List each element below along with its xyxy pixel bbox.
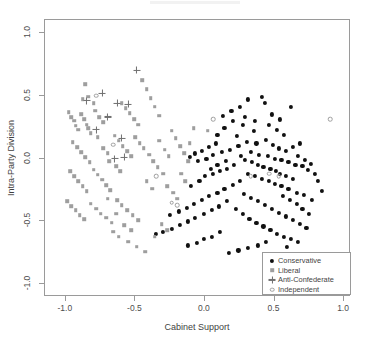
- data-point: [243, 115, 247, 119]
- data-point: [296, 240, 300, 244]
- data-point: [222, 187, 226, 191]
- data-point: [84, 155, 88, 159]
- data-point: [136, 218, 140, 222]
- data-point: [295, 190, 299, 194]
- data-point: [77, 179, 81, 183]
- legend-entry-anti-confederate[interactable]: Anti-Confederate: [267, 275, 350, 285]
- data-point: [256, 163, 260, 167]
- data-point: [114, 100, 121, 107]
- data-point: [240, 212, 244, 216]
- data-point: [116, 198, 120, 202]
- data-point: [246, 246, 250, 250]
- data-point: [125, 101, 132, 108]
- data-point: [310, 198, 314, 202]
- data-point: [97, 115, 101, 119]
- data-point: [290, 218, 294, 222]
- data-point: [303, 158, 307, 162]
- data-point: [210, 208, 214, 212]
- data-point: [218, 229, 222, 233]
- data-point: [227, 251, 231, 255]
- data-point: [133, 67, 140, 74]
- data-point: [214, 141, 218, 145]
- legend-label: Conservative: [278, 256, 321, 266]
- data-point: [206, 129, 210, 133]
- legend-entry-conservative[interactable]: Conservative: [267, 256, 350, 266]
- data-point: [111, 155, 118, 162]
- data-point: [236, 144, 240, 148]
- data-point: [250, 160, 254, 164]
- data-point: [282, 132, 286, 136]
- data-point: [169, 200, 174, 205]
- data-point: [288, 198, 292, 202]
- legend-marker-icon: [267, 275, 278, 285]
- data-point: [267, 179, 271, 183]
- data-point: [268, 166, 272, 170]
- data-point: [88, 160, 92, 164]
- data-point: [188, 142, 192, 146]
- y-tick-label: -0.5: [22, 213, 32, 228]
- x-tick-label: -0.5: [127, 303, 142, 313]
- data-point: [238, 105, 242, 109]
- data-point: [129, 228, 133, 232]
- data-point: [267, 122, 271, 126]
- data-point: [132, 118, 136, 122]
- data-point: [256, 243, 260, 247]
- legend-entry-independent[interactable]: Independent: [267, 285, 350, 295]
- data-point: [295, 202, 299, 206]
- data-point: [152, 159, 156, 163]
- x-tick-label: 0.5: [268, 303, 280, 313]
- legend-entry-liberal[interactable]: Liberal: [267, 266, 350, 276]
- data-point: [195, 241, 199, 245]
- data-point: [254, 221, 258, 225]
- data-point: [102, 120, 106, 124]
- data-point: [267, 171, 272, 176]
- data-point: [276, 174, 281, 179]
- data-point: [149, 96, 153, 100]
- data-point: [84, 82, 88, 86]
- data-point: [286, 187, 290, 191]
- data-point: [153, 105, 157, 109]
- legend-label: Liberal: [278, 266, 300, 276]
- data-point: [114, 164, 118, 168]
- data-point: [104, 113, 111, 120]
- data-point: [243, 158, 247, 162]
- data-point: [261, 165, 265, 169]
- data-point: [207, 194, 211, 198]
- data-point: [192, 202, 196, 206]
- data-point: [118, 135, 125, 142]
- data-point: [279, 184, 283, 188]
- data-point: [261, 224, 265, 228]
- y-tick-label: -1.0: [22, 276, 32, 291]
- data-point: [89, 202, 93, 206]
- y-tick-label: 0.0: [22, 152, 32, 164]
- data-point: [109, 188, 113, 192]
- data-point: [156, 166, 160, 170]
- data-point: [231, 183, 235, 187]
- data-point: [175, 203, 180, 208]
- data-point: [316, 179, 320, 183]
- data-point: [307, 212, 311, 216]
- data-point: [114, 212, 118, 216]
- data-point: [201, 212, 205, 216]
- legend-marker-glyph: [270, 269, 274, 273]
- data-point: [247, 217, 251, 221]
- data-point: [185, 206, 189, 210]
- data-point: [110, 221, 114, 225]
- data-point: [65, 200, 69, 204]
- data-point: [200, 149, 204, 153]
- data-point: [265, 154, 269, 158]
- data-point: [285, 245, 289, 249]
- data-point: [78, 213, 82, 217]
- legend-marker-glyph: [269, 276, 276, 283]
- data-point: [272, 182, 276, 186]
- data-point: [228, 148, 232, 152]
- data-point: [145, 179, 149, 183]
- data-point: [193, 151, 197, 155]
- data-point: [232, 163, 236, 167]
- x-tick-mark: [343, 296, 344, 301]
- data-point: [270, 112, 274, 116]
- data-point: [94, 93, 99, 98]
- data-point: [143, 250, 147, 254]
- x-tick-mark: [274, 296, 275, 301]
- data-point: [176, 209, 180, 213]
